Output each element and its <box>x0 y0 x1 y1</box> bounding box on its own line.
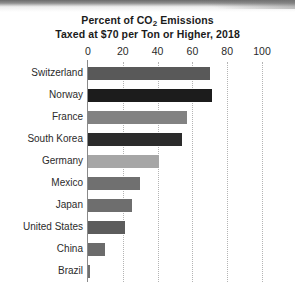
scan-artifact-corner <box>175 0 295 9</box>
bar-row <box>88 177 262 190</box>
bar-south-korea <box>88 133 182 146</box>
chart-title: Percent of CO2 Emissions Taxed at $70 pe… <box>0 14 295 41</box>
bar-row <box>88 265 262 278</box>
bar-row <box>88 199 262 212</box>
bar-mexico <box>88 177 140 190</box>
gridline <box>262 62 263 282</box>
bar-row <box>88 89 262 102</box>
x-tick-label: 60 <box>187 45 199 57</box>
bar-brazil <box>88 265 90 278</box>
x-tick-label: 20 <box>117 45 129 57</box>
bar-japan <box>88 199 132 212</box>
bar-france <box>88 111 187 124</box>
category-axis-labels: SwitzerlandNorwayFranceSouth KoreaGerman… <box>0 62 83 282</box>
chart-title-line-1-pre: Percent of CO <box>81 14 152 26</box>
category-label-brazil: Brazil <box>58 265 83 277</box>
bar-norway <box>88 89 212 102</box>
category-label-south-korea: South Korea <box>27 133 83 145</box>
chart-page: Percent of CO2 Emissions Taxed at $70 pe… <box>0 0 295 295</box>
chart-title-line-1-post: Emissions <box>157 14 213 26</box>
bar-united-states <box>88 221 125 234</box>
x-tick-label: 100 <box>253 45 271 57</box>
category-label-norway: Norway <box>49 89 83 101</box>
x-tick-label: 80 <box>221 45 233 57</box>
bar-row <box>88 67 262 80</box>
x-tick-label: 0 <box>85 45 91 57</box>
bar-row <box>88 133 262 146</box>
category-label-united-states: United States <box>23 221 83 233</box>
bar-row <box>88 111 262 124</box>
bar-switzerland <box>88 67 210 80</box>
bar-row <box>88 243 262 256</box>
category-label-germany: Germany <box>42 155 83 167</box>
category-label-switzerland: Switzerland <box>31 67 83 79</box>
bar-china <box>88 243 105 256</box>
plot-area <box>88 62 262 282</box>
category-label-china: China <box>57 243 83 255</box>
category-label-mexico: Mexico <box>51 177 83 189</box>
chart-title-subscript: 2 <box>153 19 158 28</box>
bar-row <box>88 155 262 168</box>
bar-row <box>88 221 262 234</box>
x-axis-tick-labels: 020406080100 <box>0 45 295 59</box>
x-tick-label: 40 <box>152 45 164 57</box>
category-label-japan: Japan <box>56 199 83 211</box>
chart-title-line-1: Percent of CO2 Emissions <box>0 14 295 28</box>
bar-germany <box>88 155 159 168</box>
category-label-france: France <box>52 111 83 123</box>
chart-title-line-2: Taxed at $70 per Ton or Higher, 2018 <box>0 28 295 41</box>
